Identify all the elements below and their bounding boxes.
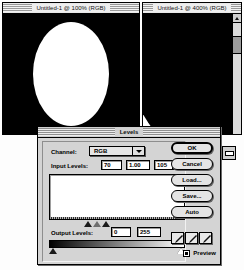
- window-titlebar[interactable]: Untitled-1 @ 100% (RGB): [3, 3, 139, 14]
- histogram-plot: [49, 174, 185, 220]
- channel-selected-value: RGB: [90, 148, 107, 155]
- eyedropper-row: [171, 232, 215, 244]
- vertical-scrollbar[interactable]: [232, 14, 241, 134]
- canvas-background: [143, 14, 241, 134]
- ellipse-edge-arc: [143, 14, 241, 134]
- dialog-button-column: OK Cancel Load... Save... Auto: [171, 142, 215, 222]
- save-button[interactable]: Save...: [171, 190, 213, 202]
- input-shadow-field[interactable]: 70: [101, 160, 122, 170]
- preview-checkbox[interactable]: [183, 250, 190, 257]
- output-levels-label: Output Levels:: [51, 230, 93, 237]
- input-levels-label: Input Levels:: [51, 163, 88, 170]
- channel-label: Channel:: [51, 149, 77, 156]
- output-levels-slider[interactable]: [49, 248, 185, 255]
- output-black-field[interactable]: 0: [111, 227, 131, 237]
- input-highlight-value: 105: [157, 162, 167, 168]
- levels-dialog[interactable]: Levels Channel: RGB Input Levels: 70 1.0…: [37, 126, 221, 265]
- white-point-eyedropper[interactable]: [199, 232, 212, 244]
- eyedropper-icon: [187, 234, 198, 244]
- canvas-background: [3, 14, 139, 134]
- output-white-field[interactable]: 255: [137, 227, 161, 237]
- auto-button[interactable]: Auto: [171, 206, 213, 218]
- output-gradient-ramp: [49, 240, 185, 248]
- document-window-400[interactable]: Untitled-1 @ 400% (RGB): [142, 2, 242, 135]
- cancel-button[interactable]: Cancel: [171, 158, 213, 170]
- dialog-titlebar[interactable]: Levels: [38, 127, 220, 138]
- input-white-point-slider[interactable]: [102, 221, 110, 227]
- window-titlebar[interactable]: Untitled-1 @ 400% (RGB): [143, 3, 241, 14]
- load-button[interactable]: Load...: [171, 174, 213, 186]
- scrollbar-thumb[interactable]: [233, 36, 241, 54]
- window-title: Untitled-1 @ 100% (RGB): [32, 4, 109, 12]
- histogram-bars: [51, 217, 183, 219]
- palette-sliver[interactable]: [222, 146, 236, 160]
- input-midtone-field[interactable]: 1.00: [126, 160, 150, 170]
- scroll-up-arrow-icon[interactable]: [233, 14, 241, 23]
- black-point-eyedropper[interactable]: [171, 232, 184, 244]
- dialog-body: Channel: RGB Input Levels: 70 1.00 105: [38, 138, 220, 264]
- image-canvas[interactable]: [143, 14, 241, 134]
- palette-sliver-field: [225, 151, 234, 156]
- ok-button[interactable]: OK: [171, 142, 213, 154]
- screen: Untitled-1 @ 100% (RGB) Untitled-1 @ 400…: [0, 0, 244, 270]
- input-black-point-slider[interactable]: [84, 221, 92, 227]
- image-canvas[interactable]: [3, 14, 139, 134]
- eyedropper-icon: [201, 234, 212, 244]
- channel-select[interactable]: RGB: [89, 146, 145, 156]
- chevron-down-icon[interactable]: [132, 147, 144, 155]
- gray-point-eyedropper[interactable]: [185, 232, 198, 244]
- input-gray-point-slider[interactable]: [93, 221, 101, 227]
- preview-row[interactable]: Preview: [183, 250, 216, 257]
- ellipse-shape: [33, 22, 109, 126]
- eyedropper-icon: [173, 234, 184, 244]
- dialog-title: Levels: [115, 128, 144, 136]
- levels-controls-panel: Channel: RGB Input Levels: 70 1.00 105: [42, 141, 186, 262]
- preview-label: Preview: [193, 250, 216, 257]
- document-window-100[interactable]: Untitled-1 @ 100% (RGB): [2, 2, 140, 135]
- output-black-point-slider[interactable]: [49, 248, 57, 254]
- window-title: Untitled-1 @ 400% (RGB): [153, 4, 230, 12]
